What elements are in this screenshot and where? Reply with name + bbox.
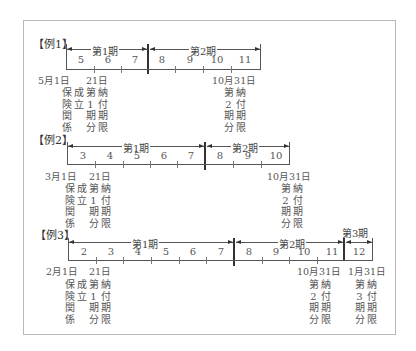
month-cell: 2 [74, 246, 94, 257]
month-cell: 8 [210, 150, 230, 161]
start-date: 5月1日 [38, 75, 70, 86]
arrow-left-icon [207, 144, 212, 148]
note-col: 納付期限 [100, 183, 111, 229]
month-cell: 11 [322, 246, 342, 257]
tick [233, 161, 234, 168]
month-cell: 4 [100, 150, 120, 161]
note-col: 成立 [76, 279, 87, 302]
due-1-date: 21日 [86, 75, 108, 86]
tick [150, 161, 151, 168]
timeline-right-edge [289, 142, 290, 164]
note-col: 第2期分 [280, 183, 291, 229]
arrow-left-icon [150, 47, 155, 51]
tick [177, 161, 178, 168]
period-divider [343, 238, 345, 260]
tick [203, 66, 204, 73]
month-cell: 5 [156, 246, 176, 257]
tick [121, 66, 122, 73]
note-col: 第1期分 [85, 87, 96, 133]
note-col: 第2期分 [223, 87, 234, 133]
start-date: 2月1日 [46, 266, 78, 277]
tick [123, 161, 124, 168]
arrow-left-icon [68, 144, 73, 148]
arrow-left-icon [67, 47, 72, 51]
arrow-left-icon [69, 240, 74, 244]
note-col: 成立 [73, 87, 84, 110]
period-3-label: 第3期 [341, 225, 369, 240]
tick [317, 257, 318, 264]
month-cell: 9 [266, 246, 286, 257]
month-cell: 7 [211, 246, 231, 257]
tick [179, 257, 180, 264]
note-col: 納付期限 [235, 87, 246, 133]
month-cell: 5 [71, 54, 91, 65]
timeline-right-edge [260, 44, 261, 69]
note-col: 納付期限 [320, 279, 331, 325]
note-col: 保険関係 [64, 279, 75, 325]
month-cell: 12 [349, 246, 369, 257]
month-cell: 8 [152, 54, 172, 65]
due-2-date: 10月31日 [297, 266, 341, 277]
month-cell: 7 [181, 150, 201, 161]
note-col: 保険関係 [64, 183, 75, 229]
tick [262, 257, 263, 264]
due-2-date: 10月31日 [212, 75, 256, 86]
month-cell: 9 [238, 150, 258, 161]
due-2-date: 10月31日 [267, 171, 311, 182]
timeline-baseline [67, 164, 290, 165]
start-date: 3月1日 [45, 171, 77, 182]
month-cell: 3 [101, 246, 121, 257]
note-col: 保険関係 [61, 87, 72, 133]
note-col: 納付期限 [100, 279, 111, 325]
due-1-date: 21日 [89, 171, 111, 182]
month-cell: 5 [127, 150, 147, 161]
tick [175, 66, 176, 73]
tick [206, 257, 207, 264]
tick [151, 257, 152, 264]
timeline-baseline [68, 260, 373, 261]
note-col: 納付期限 [366, 279, 377, 325]
tick [261, 161, 262, 168]
month-cell: 11 [235, 54, 255, 65]
month-cell: 7 [125, 54, 145, 65]
month-cell: 3 [73, 150, 93, 161]
tick [94, 66, 95, 73]
tick [231, 66, 232, 73]
note-col: 納付期限 [97, 87, 108, 133]
month-cell: 4 [128, 246, 148, 257]
period-divider [204, 142, 206, 170]
month-cell: 6 [154, 150, 174, 161]
timeline-right-edge [372, 238, 373, 260]
note-col: 成立 [76, 183, 87, 206]
month-cell: 6 [183, 246, 203, 257]
due-1-date: 21日 [89, 266, 111, 277]
tick [123, 257, 124, 264]
period-divider [233, 238, 235, 266]
note-col: 第1期分 [88, 183, 99, 229]
month-cell: 6 [98, 54, 118, 65]
tick [289, 257, 290, 264]
month-cell: 10 [207, 54, 227, 65]
tick [96, 257, 97, 264]
arrow-left-icon [346, 240, 351, 244]
arrow-left-icon [236, 240, 241, 244]
month-cell: 8 [239, 246, 259, 257]
month-cell: 10 [294, 246, 314, 257]
month-cell: 10 [266, 150, 286, 161]
note-col: 第3期分 [354, 279, 365, 325]
tick [95, 161, 96, 168]
note-col: 第2期分 [308, 279, 319, 325]
note-col: 第1期分 [88, 279, 99, 325]
note-col: 納付期限 [292, 183, 303, 229]
due-3-date: 1月31日 [348, 266, 386, 277]
month-cell: 9 [180, 54, 200, 65]
